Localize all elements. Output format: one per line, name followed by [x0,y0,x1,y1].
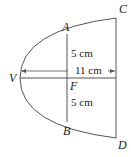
measure-upper: 5 cm [71,47,93,59]
measure-depth: 11 cm [75,64,102,76]
arrowhead-left-icon [21,69,26,73]
label-V: V [9,71,18,85]
label-B: B [63,124,71,138]
label-D: D [117,138,127,152]
label-A: A [61,20,70,34]
label-C: C [119,2,128,16]
arrowhead-right-icon [110,69,115,73]
parabola-diagram: C A V F B D 5 cm 11 cm 5 cm [0,0,131,157]
label-F: F [69,79,78,93]
measure-lower: 5 cm [71,96,93,108]
